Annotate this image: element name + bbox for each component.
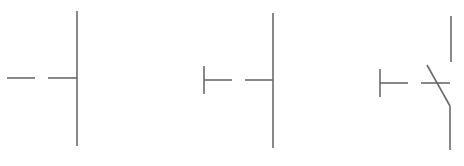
switch-symbols-diagram bbox=[0, 0, 464, 166]
contact-blade bbox=[427, 65, 450, 106]
pushbutton-nc-symbol bbox=[380, 16, 451, 150]
pushbutton-no-symbol bbox=[204, 13, 273, 148]
open-contact-symbol bbox=[7, 11, 77, 146]
